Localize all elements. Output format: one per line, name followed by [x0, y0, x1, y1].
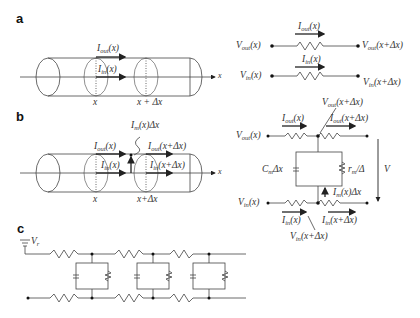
panel-label-b: b — [16, 110, 24, 123]
label-a-x-dx: x + Δx — [137, 98, 162, 108]
figure-drawing — [0, 0, 420, 318]
label-b-axis: x — [218, 168, 222, 176]
label-b-c-iin: Iin(x) — [282, 216, 301, 227]
label-a-iout: Iout(x) — [97, 44, 119, 55]
label-b-vin-left: Vin(x) — [238, 198, 259, 209]
label-b-x-dx: x+Δx — [137, 195, 157, 205]
label-a-vout-right: Vout(x+Δx) — [362, 41, 403, 52]
label-a-iin: Iin(x) — [98, 65, 117, 76]
label-b-iout2: Iout(x+Δx) — [148, 142, 186, 153]
label-b-c-iout2: Iout(x+Δx) — [330, 114, 368, 125]
label-b-c-iout: Iout(x) — [282, 114, 304, 125]
cable-model-figure: a b c Iout(x) Iin(x) x x + Δx x Iout(x) … — [0, 0, 420, 318]
label-b-vin-bottom: Vin(x+Δx) — [290, 232, 328, 243]
label-b-vout-top: Vout(x+Δx) — [322, 98, 363, 109]
circuit-c — [20, 240, 246, 302]
label-a-vout-left: Vout(x) — [236, 41, 261, 52]
label-a-vin-right: Vin(x+Δx) — [363, 78, 401, 89]
label-b-iout: Iout(x) — [94, 142, 116, 153]
label-a-axis: x — [218, 72, 222, 80]
label-b-im: Im(x)Δx — [131, 121, 159, 132]
label-b-v: V — [384, 165, 390, 175]
label-b-iin: Iin(x) — [101, 161, 120, 172]
label-a-c-iout: Iout(x) — [298, 22, 320, 33]
label-b-iin2: Iin(x+Δx) — [150, 161, 185, 172]
label-b-x: x — [93, 195, 97, 205]
label-b-vout-left: Vout(x) — [236, 131, 261, 142]
label-b-res: rm/Δ — [348, 165, 365, 176]
label-b-cap: CmΔx — [262, 165, 283, 176]
panel-label-a: a — [16, 12, 23, 25]
panel-label-c: c — [17, 222, 24, 235]
label-b-c-im: Im(x)Δx — [333, 188, 361, 199]
label-a-x: x — [93, 98, 97, 108]
label-b-c-iin2: Iin(x+Δx) — [322, 216, 357, 227]
label-a-c-iin: Iin(x) — [302, 55, 321, 66]
label-c-ground: Vr — [31, 237, 39, 248]
label-a-vin-left: Vin(x) — [240, 71, 261, 82]
